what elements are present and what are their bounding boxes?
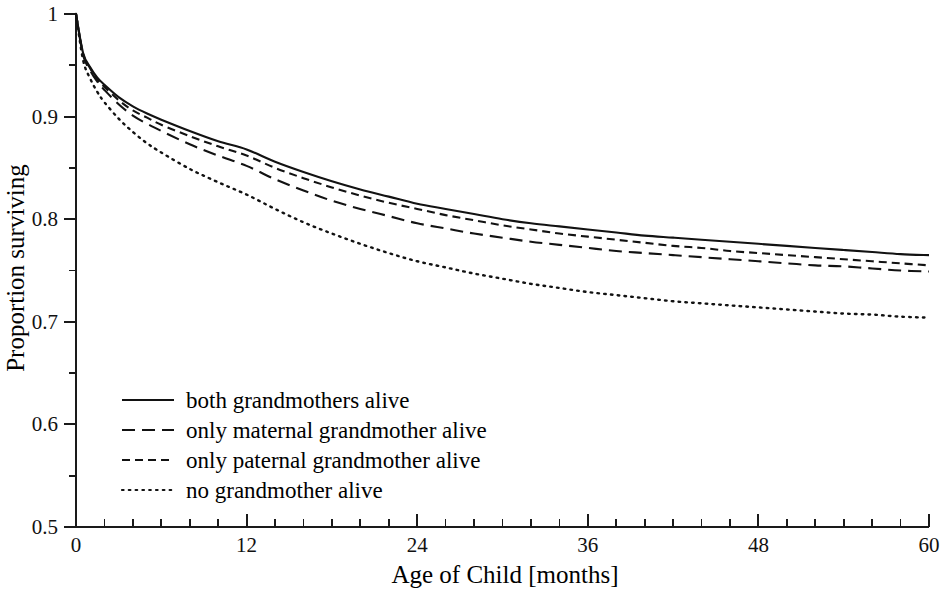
y-axis-title: Proportion surviving (2, 164, 29, 372)
curve-series-0 (76, 14, 929, 255)
x-tick-label: 0 (71, 533, 82, 557)
x-axis-ticks (76, 514, 929, 527)
x-tick-label: 12 (236, 533, 257, 557)
y-tick-label: 0.8 (32, 207, 58, 231)
legend: both grandmothers aliveonly maternal gra… (122, 388, 487, 503)
x-tick-label: 36 (577, 533, 598, 557)
legend-label-3: no grandmother alive (186, 478, 383, 503)
x-tick-label: 48 (748, 533, 769, 557)
survival-curve-figure: 0.50.60.70.80.91 01224364860 Age of Chil… (0, 0, 952, 593)
legend-label-1: only maternal grandmother alive (186, 418, 487, 443)
legend-label-2: only paternal grandmother alive (186, 448, 480, 473)
data-curves (76, 14, 929, 318)
y-tick-label: 1 (48, 2, 59, 26)
x-axis-title: Age of Child [months] (391, 561, 618, 588)
legend-label-0: both grandmothers alive (186, 388, 410, 413)
y-tick-label: 0.5 (32, 515, 58, 539)
curve-series-3 (76, 14, 929, 318)
y-axis-ticks (64, 14, 76, 527)
x-axis-tick-labels: 01224364860 (71, 533, 940, 557)
y-tick-label: 0.6 (32, 412, 58, 436)
x-tick-label: 60 (919, 533, 940, 557)
plot-area: 0.50.60.70.80.91 01224364860 Age of Chil… (0, 0, 952, 593)
y-tick-label: 0.9 (32, 105, 58, 129)
y-axis-tick-labels: 0.50.60.70.80.91 (32, 2, 58, 539)
curve-series-2 (76, 14, 929, 265)
x-tick-label: 24 (407, 533, 429, 557)
y-tick-label: 0.7 (32, 310, 58, 334)
curve-series-1 (76, 14, 929, 272)
